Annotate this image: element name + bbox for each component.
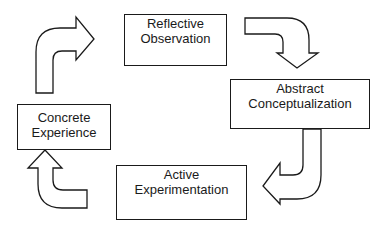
stage-concrete-experience: Concrete Experience xyxy=(17,104,111,150)
stage-label-line2: Experimentation xyxy=(117,182,246,197)
arrow-abstract-to-active-icon xyxy=(263,129,321,204)
arrow-concrete-to-reflective-icon xyxy=(36,17,94,93)
stage-label-line1: Concrete xyxy=(18,110,110,125)
stage-label-line2: Experience xyxy=(18,125,110,140)
stage-label-line1: Reflective xyxy=(125,16,226,31)
arrow-reflective-to-abstract-icon xyxy=(245,18,318,68)
stage-label-line1: Active xyxy=(117,167,246,182)
stage-label-line1: Abstract xyxy=(231,81,369,96)
arrow-active-to-concrete-icon xyxy=(28,150,87,208)
stage-reflective-observation: Reflective Observation xyxy=(124,14,227,66)
stage-label-line2: Conceptualization xyxy=(231,96,369,111)
stage-abstract-conceptualization: Abstract Conceptualization xyxy=(230,79,370,129)
stage-active-experimentation: Active Experimentation xyxy=(116,165,247,220)
stage-label-line2: Observation xyxy=(125,31,226,46)
